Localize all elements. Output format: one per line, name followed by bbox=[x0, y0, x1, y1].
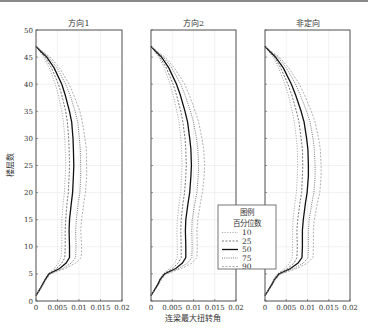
series-p25 bbox=[151, 46, 186, 295]
legend-title: 图例 bbox=[240, 207, 254, 217]
x-tick-label: 0.01 bbox=[300, 304, 316, 312]
panel-3: 非定向00.0050.010.0150.02 bbox=[263, 18, 358, 312]
y-tick-label: 15 bbox=[24, 216, 33, 224]
panels-group: 方向100.0050.010.0150.02051015202530354045… bbox=[24, 18, 358, 312]
x-tick-label: 0.005 bbox=[162, 304, 182, 312]
x-tick-label: 0.005 bbox=[47, 304, 67, 312]
x-tick-label: 0 bbox=[263, 304, 267, 312]
x-axis-label: 连梁最大扭转角 bbox=[165, 313, 221, 323]
x-tick-label: 0 bbox=[149, 304, 153, 312]
y-tick-label: 5 bbox=[29, 270, 33, 278]
x-tick-label: 0.02 bbox=[228, 304, 244, 312]
panel-1: 方向100.0050.010.0150.02051015202530354045… bbox=[24, 18, 130, 312]
panel-title: 方向1 bbox=[68, 18, 89, 28]
y-tick-label: 45 bbox=[24, 54, 33, 62]
y-axis-label: 楼层数 bbox=[5, 153, 15, 177]
y-tick-label: 25 bbox=[24, 162, 33, 170]
x-tick-label: 0.01 bbox=[71, 304, 87, 312]
x-tick-label: 0.02 bbox=[342, 304, 358, 312]
y-tick-label: 20 bbox=[24, 189, 33, 197]
series-p10 bbox=[151, 46, 182, 295]
panel-title: 非定向 bbox=[296, 18, 320, 28]
y-tick-label: 40 bbox=[24, 81, 33, 89]
y-tick-label: 50 bbox=[24, 27, 33, 35]
x-tick-label: 0.015 bbox=[205, 304, 225, 312]
series-p25 bbox=[36, 46, 70, 295]
y-tick-label: 0 bbox=[29, 298, 33, 306]
x-tick-label: 0.02 bbox=[114, 304, 130, 312]
y-tick-label: 30 bbox=[24, 135, 33, 143]
x-tick-label: 0.015 bbox=[319, 304, 339, 312]
panel-title: 方向2 bbox=[183, 18, 204, 28]
x-tick-label: 0.005 bbox=[276, 304, 296, 312]
y-tick-label: 35 bbox=[24, 108, 33, 116]
x-tick-label: 0 bbox=[34, 304, 38, 312]
y-tick-label: 10 bbox=[24, 243, 33, 251]
series-p90 bbox=[151, 46, 205, 295]
chart-canvas: 方向100.0050.010.0150.02051015202530354045… bbox=[0, 0, 368, 329]
legend-subtitle: 百分位数 bbox=[233, 218, 262, 228]
x-tick-label: 0.01 bbox=[186, 304, 202, 312]
x-tick-label: 0.015 bbox=[90, 304, 110, 312]
legend: 图例 百分位数 1025507590 bbox=[218, 205, 276, 271]
series-p50 bbox=[151, 46, 191, 295]
legend-label-90: 90 bbox=[242, 262, 252, 271]
